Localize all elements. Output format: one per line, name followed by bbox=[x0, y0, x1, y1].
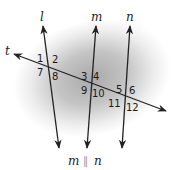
angle-label-1: 1 bbox=[37, 53, 43, 64]
angle-label-10: 10 bbox=[92, 88, 105, 99]
angle-label-3: 3 bbox=[81, 71, 87, 82]
parallel-lines-diagram: l m n t 127834910561112 m ∥ n bbox=[0, 0, 172, 170]
label-m: m bbox=[91, 10, 102, 24]
label-t: t bbox=[5, 44, 10, 58]
caption-parallel-symbol: ∥ bbox=[83, 155, 89, 168]
caption-m: m bbox=[68, 154, 79, 168]
angle-label-8: 8 bbox=[52, 71, 58, 82]
angle-label-12: 12 bbox=[126, 102, 139, 113]
angle-label-11: 11 bbox=[108, 98, 121, 109]
label-n: n bbox=[126, 10, 134, 24]
angle-label-9: 9 bbox=[81, 85, 87, 96]
angle-label-7: 7 bbox=[37, 67, 43, 78]
caption-n: n bbox=[94, 154, 102, 168]
angle-label-6: 6 bbox=[129, 85, 135, 96]
label-l: l bbox=[40, 10, 44, 24]
angle-label-5: 5 bbox=[116, 84, 122, 95]
angle-label-2: 2 bbox=[52, 54, 58, 65]
diagram-canvas: l m n t 127834910561112 m ∥ n bbox=[0, 0, 172, 170]
angle-label-4: 4 bbox=[93, 71, 99, 82]
